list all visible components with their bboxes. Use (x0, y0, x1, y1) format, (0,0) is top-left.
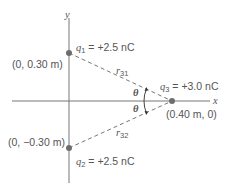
q3-label: q3 = +3.0 nC (160, 81, 218, 94)
q1-charge (66, 50, 72, 56)
q1-label: q1 = +2.5 nC (76, 42, 134, 55)
q2-coords: (0, −0.30 m) (8, 137, 65, 148)
r32-label: r32 (116, 127, 128, 140)
r31-subscript: 31 (120, 69, 128, 78)
q2-label: q2 = +2.5 nC (76, 156, 134, 169)
theta-upper-label: θ (133, 88, 138, 99)
q2-subscript: 2 (81, 160, 85, 169)
charge-diagram: y x q1 = +2.5 nC (0, 0.30 m) q2 = +2.5 n… (0, 0, 229, 192)
q3-charge (169, 98, 175, 104)
x-axis-label: x (213, 96, 218, 107)
theta-arrow-up (145, 87, 149, 91)
q1-coords: (0, 0.30 m) (12, 59, 63, 70)
q1-subscript: 1 (81, 46, 85, 55)
q3-coords: (0.40 m, 0) (166, 109, 217, 120)
y-axis-label: y (65, 10, 70, 21)
r31-label: r31 (116, 65, 128, 78)
r32-line (69, 101, 172, 148)
r32-subscript: 32 (120, 131, 128, 140)
q1-value: = +2.5 nC (88, 41, 134, 53)
theta-lower-label: θ (133, 104, 138, 115)
q2-charge (66, 145, 72, 151)
q3-value: = +3.0 nC (172, 80, 218, 92)
theta-arrow-down (145, 111, 149, 115)
q2-value: = +2.5 nC (88, 155, 134, 167)
q3-subscript: 3 (165, 85, 169, 94)
